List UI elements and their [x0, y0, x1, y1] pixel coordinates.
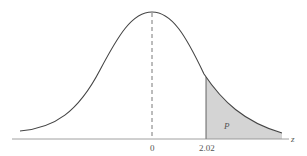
shaded-area-label: P: [223, 121, 230, 131]
normal-curve-figure: 0 2.02 P z: [0, 0, 307, 156]
tick-label-2-02: 2.02: [199, 143, 215, 153]
axis-label-z: z: [290, 134, 295, 144]
bell-curve: [20, 12, 282, 133]
tick-label-zero: 0: [150, 143, 155, 153]
